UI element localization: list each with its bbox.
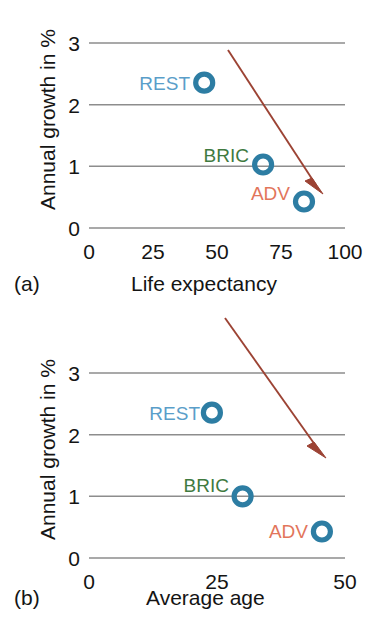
ytick-a-3: 3 bbox=[68, 32, 80, 55]
ytick-b-3: 3 bbox=[68, 362, 80, 385]
datapoint-label-a-bric: BRIC bbox=[204, 145, 249, 166]
x-axis-title-a: Life expectancy bbox=[131, 272, 277, 296]
chart-panel-a: 3 2 1 0 0 25 50 75 100 REST BRIC ADV Ann… bbox=[0, 0, 379, 300]
figure-two-scatter-panels: 3 2 1 0 0 25 50 75 100 REST BRIC ADV Ann… bbox=[0, 0, 379, 619]
datapoint-label-a-adv: ADV bbox=[251, 183, 290, 204]
datapoint-label-b-bric: BRIC bbox=[184, 475, 229, 496]
ytick-a-0: 0 bbox=[68, 217, 80, 240]
datapoint-label-b-rest: REST bbox=[149, 403, 200, 424]
xtick-a-50: 50 bbox=[205, 240, 228, 263]
ytick-b-2: 2 bbox=[68, 424, 80, 447]
datapoint-a-bric bbox=[255, 156, 272, 173]
trend-arrow-b-line bbox=[225, 318, 318, 449]
ytick-a-2: 2 bbox=[68, 94, 80, 117]
panel-caption-b: (b) bbox=[14, 586, 40, 610]
ytick-a-1: 1 bbox=[68, 155, 80, 178]
x-axis-title-b: Average age bbox=[146, 586, 265, 610]
datapoint-b-adv bbox=[313, 523, 330, 540]
chart-panel-b: 3 2 1 0 0 25 50 REST BRIC ADV Annual gro… bbox=[0, 300, 379, 619]
xtick-a-25: 25 bbox=[141, 240, 164, 263]
datapoint-a-adv bbox=[296, 193, 313, 210]
datapoint-label-b-adv: ADV bbox=[269, 521, 308, 542]
trend-arrow-b-head bbox=[307, 442, 326, 458]
xtick-a-75: 75 bbox=[269, 240, 292, 263]
xtick-a-100: 100 bbox=[327, 240, 362, 263]
ytick-b-0: 0 bbox=[68, 547, 80, 570]
y-axis-title-a: Annual growth in % bbox=[36, 29, 60, 210]
datapoint-label-a-rest: REST bbox=[139, 73, 190, 94]
panel-caption-a: (a) bbox=[14, 272, 40, 296]
ytick-b-1: 1 bbox=[68, 485, 80, 508]
y-axis-title-b: Annual growth in % bbox=[36, 359, 60, 540]
datapoint-b-rest bbox=[203, 404, 220, 421]
xtick-a-0: 0 bbox=[83, 240, 95, 263]
datapoint-a-rest bbox=[196, 74, 213, 91]
xtick-b-0: 0 bbox=[83, 570, 95, 593]
xtick-b-50: 50 bbox=[333, 570, 356, 593]
